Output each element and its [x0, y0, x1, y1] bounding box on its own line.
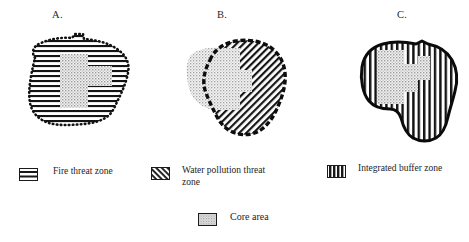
legend-label-fire: Fire threat zone — [53, 166, 113, 178]
map-panel-a — [14, 30, 139, 142]
panel-label-b: B. — [217, 9, 227, 20]
diagonal-lines-swatch-icon — [151, 167, 170, 180]
stipple-swatch-icon — [198, 213, 217, 226]
legend-item-core: Core area — [198, 211, 269, 226]
legend-item-buffer: Integrated buffer zone — [327, 163, 442, 178]
legend-item-fire: Fire threat zone — [19, 166, 113, 181]
legend-item-water: Water pollution threat zone — [151, 165, 278, 188]
vertical-lines-swatch-icon — [327, 165, 346, 178]
horizontal-lines-swatch-icon — [19, 168, 38, 181]
legend-label-water: Water pollution threat zone — [182, 165, 278, 188]
legend-label-core: Core area — [230, 211, 269, 223]
figure-canvas: A. B. C. — [0, 0, 469, 242]
panel-label-c: C. — [397, 9, 407, 20]
map-panel-b — [178, 30, 303, 148]
legend-label-buffer: Integrated buffer zone — [358, 163, 442, 175]
map-panel-c — [342, 30, 469, 152]
panel-label-a: A. — [52, 9, 63, 20]
